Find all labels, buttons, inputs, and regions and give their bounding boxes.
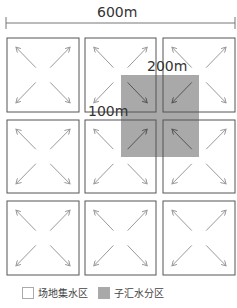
legend-swatch-sub — [98, 287, 110, 299]
legend-label-catchment: 场地集水区 — [38, 285, 88, 300]
gray-width-label: 200m — [147, 59, 187, 73]
half-offset-label: 100m — [88, 104, 128, 118]
legend: 场地集水区 子汇水分区 — [22, 285, 164, 300]
legend-label-sub: 子汇水分区 — [114, 285, 164, 300]
total-width-label: 600m — [97, 5, 137, 19]
catchment-diagram — [0, 0, 237, 308]
legend-swatch-catchment — [22, 287, 34, 299]
